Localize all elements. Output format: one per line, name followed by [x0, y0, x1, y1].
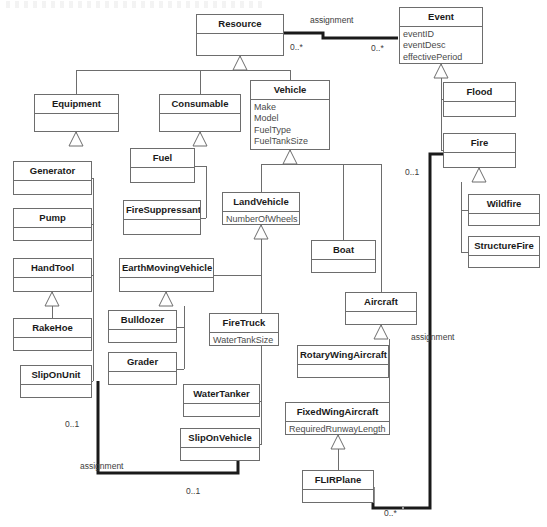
- class-name-sliponvehicle: SlipOnVehicle: [181, 429, 259, 448]
- edge-label-mult-flirplane: 0..*: [384, 509, 397, 518]
- class-box-aircraft[interactable]: Aircraft: [345, 292, 417, 325]
- class-name-flood: Flood: [444, 83, 515, 102]
- edge-label-mult-resource: 0..*: [290, 43, 303, 52]
- class-box-event[interactable]: Event eventID eventDesc effectivePeriod: [399, 7, 483, 64]
- class-name-earthmovingvehicle: EarthMovingVehicle: [120, 259, 213, 278]
- class-name-pump: Pump: [14, 209, 91, 228]
- class-name-consumable: Consumable: [160, 95, 240, 114]
- class-box-flood[interactable]: Flood: [443, 82, 516, 117]
- class-name-boat: Boat: [312, 241, 375, 260]
- generalization-arrow-aircraft: [374, 325, 388, 339]
- class-box-vehicle[interactable]: Vehicle Make Model FuelType FuelTankSize: [250, 80, 330, 150]
- edge-label-mult-sliponunit-01: 0..1: [65, 420, 79, 429]
- class-box-flirplane[interactable]: FLIRPlane: [302, 470, 374, 503]
- attribute-requiredrunwaylength: RequiredRunwayLength: [289, 424, 386, 436]
- generalization-arrow-earthmoving: [159, 292, 173, 306]
- class-box-fixedwingaircraft[interactable]: FixedWingAircraft RequiredRunwayLength: [285, 402, 390, 435]
- class-name-firesuppressant: FireSuppressant: [124, 201, 200, 220]
- class-box-earthmovingvehicle[interactable]: EarthMovingVehicle: [119, 258, 214, 292]
- class-box-firesuppressant[interactable]: FireSuppressant: [123, 200, 201, 235]
- attribute-eventid: eventID: [403, 29, 479, 41]
- generalization-arrow-resource: [233, 56, 247, 70]
- class-box-consumable[interactable]: Consumable: [159, 94, 241, 132]
- class-name-wildfire: Wildfire: [469, 195, 539, 214]
- generalization-arrow-landvehicle: [254, 225, 268, 239]
- class-box-wildfire[interactable]: Wildfire: [468, 194, 540, 226]
- class-box-resource[interactable]: Resource: [196, 14, 284, 56]
- class-attrs-landvehicle: NumberOfWheels: [223, 212, 299, 228]
- class-name-vehicle: Vehicle: [251, 81, 329, 100]
- class-box-landvehicle[interactable]: LandVehicle NumberOfWheels: [222, 192, 300, 225]
- class-name-fixedwingaircraft: FixedWingAircraft: [286, 403, 389, 422]
- class-name-sliponunit: SlipOnUnit: [21, 366, 91, 385]
- class-box-rakehoe[interactable]: RakeHoe: [13, 318, 92, 351]
- class-box-structurefire[interactable]: StructureFire: [468, 236, 540, 268]
- edge-landvehicle-sliponvehicle: [260, 401, 261, 444]
- class-attrs-vehicle: Make Model FuelType FuelTankSize: [251, 100, 329, 150]
- class-box-equipment[interactable]: Equipment: [34, 94, 119, 132]
- class-box-sliponvehicle[interactable]: SlipOnVehicle: [180, 428, 260, 461]
- class-box-handtool[interactable]: HandTool: [13, 258, 92, 292]
- class-name-landvehicle: LandVehicle: [223, 193, 299, 212]
- class-box-bulldozer[interactable]: Bulldozer: [108, 310, 177, 343]
- class-box-boat[interactable]: Boat: [311, 240, 376, 273]
- edge-label-assignment-aircraft: assignment: [411, 333, 454, 342]
- scan-artifact-top: [6, 1, 266, 8]
- attribute-eventdesc: eventDesc: [403, 40, 479, 52]
- edge-label-assignment-bottom: assignment: [80, 462, 123, 471]
- generalization-arrow-consumable: [193, 132, 207, 146]
- uml-class-diagram: Resource Event eventID eventDesc effecti…: [0, 0, 547, 527]
- class-name-fire: Fire: [444, 134, 515, 153]
- generalization-arrow-handtool: [45, 292, 59, 306]
- attribute-fueltanksize: FuelTankSize: [254, 136, 326, 148]
- class-name-structurefire: StructureFire: [469, 237, 539, 256]
- generalization-arrow-event: [434, 64, 448, 78]
- class-name-watertanker: WaterTanker: [184, 385, 259, 404]
- association-resource-event: [284, 33, 398, 38]
- class-name-firetruck: FireTruck: [210, 314, 278, 333]
- class-name-rotarywingaircraft: RotaryWingAircraft: [298, 346, 388, 365]
- class-attrs-fixedwingaircraft: RequiredRunwayLength: [286, 422, 389, 438]
- attribute-fueltype: FuelType: [254, 125, 326, 137]
- edge-label-mult-fire-01: 0..1: [405, 168, 419, 177]
- class-name-grader: Grader: [109, 353, 176, 372]
- class-attrs-event: eventID eventDesc effectivePeriod: [400, 27, 482, 66]
- attribute-watertanksize: WaterTankSize: [213, 335, 275, 347]
- class-box-generator[interactable]: Generator: [13, 161, 92, 195]
- class-box-firetruck[interactable]: FireTruck WaterTankSize: [209, 313, 279, 346]
- class-name-equipment: Equipment: [35, 95, 118, 114]
- class-name-generator: Generator: [14, 162, 91, 181]
- class-name-bulldozer: Bulldozer: [109, 311, 176, 330]
- class-box-fuel[interactable]: Fuel: [130, 148, 195, 183]
- class-box-fire[interactable]: Fire: [443, 133, 516, 168]
- attribute-numberofwheels: NumberOfWheels: [226, 214, 296, 226]
- generalization-arrow-vehicle: [283, 150, 297, 164]
- class-attrs-firetruck: WaterTankSize: [210, 333, 278, 349]
- class-name-resource: Resource: [197, 15, 283, 34]
- class-name-handtool: HandTool: [14, 259, 91, 278]
- class-box-rotarywingaircraft[interactable]: RotaryWingAircraft: [297, 345, 389, 378]
- edge-label-assignment-top: assignment: [310, 16, 353, 25]
- edge-label-mult-event-left: 0..*: [371, 44, 384, 53]
- class-box-watertanker[interactable]: WaterTanker: [183, 384, 260, 417]
- generalization-arrow-fixedwing: [331, 435, 345, 449]
- class-name-flirplane: FLIRPlane: [303, 471, 373, 490]
- scan-artifact-dot: [402, 507, 404, 509]
- class-box-pump[interactable]: Pump: [13, 208, 92, 241]
- edge-label-mult-sliponveh-01: 0..1: [186, 487, 200, 496]
- class-name-fuel: Fuel: [131, 149, 194, 168]
- class-box-grader[interactable]: Grader: [108, 352, 177, 385]
- attribute-model: Model: [254, 113, 326, 125]
- class-name-rakehoe: RakeHoe: [14, 319, 91, 338]
- attribute-effectiveperiod: effectivePeriod: [403, 52, 479, 64]
- generalization-arrow-equipment: [69, 132, 83, 146]
- class-name-event: Event: [400, 8, 482, 27]
- generalization-arrow-fire: [472, 168, 486, 182]
- class-name-aircraft: Aircraft: [346, 293, 416, 312]
- class-box-sliponunit[interactable]: SlipOnUnit: [20, 365, 92, 398]
- attribute-make: Make: [254, 102, 326, 114]
